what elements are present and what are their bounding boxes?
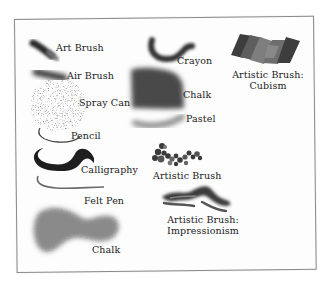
artistic-brush-dots: [152, 143, 202, 166]
label-impressionism-line1: Artistic Brush:: [162, 214, 244, 225]
label-artistic-brush: Artistic Brush: [153, 170, 221, 181]
label-pencil: Pencil: [71, 130, 101, 141]
label-chalk-large: Chalk: [92, 244, 120, 255]
label-spray-can: Spray Can: [79, 97, 130, 108]
label-air-brush: Air Brush: [67, 70, 114, 81]
label-impressionism: Artistic Brush: Impressionism: [162, 214, 244, 236]
label-cubism-line1: Artistic Brush:: [226, 69, 310, 80]
cubism-stroke: [231, 34, 300, 64]
impressionism-stroke: [162, 186, 231, 211]
art-brush-stroke: [33, 43, 57, 59]
spray-can-stroke: [30, 78, 86, 132]
brush-strokes-canvas: [0, 0, 328, 287]
label-pastel: Pastel: [186, 113, 216, 124]
chalk-block-stroke: [131, 68, 184, 109]
label-impressionism-line2: Impressionism: [162, 225, 244, 236]
air-brush-stroke: [36, 72, 64, 78]
label-calligraphy: Calligraphy: [81, 164, 138, 175]
label-cubism-line2: Cubism: [226, 80, 310, 91]
label-felt-pen: Felt Pen: [84, 195, 124, 206]
felt-pen-stroke: [37, 176, 104, 188]
label-cubism: Artistic Brush: Cubism: [226, 69, 310, 91]
label-crayon: Crayon: [177, 55, 212, 66]
label-art-brush: Art Brush: [56, 42, 104, 53]
pastel-stroke: [135, 117, 182, 125]
label-chalk: Chalk: [183, 89, 211, 100]
